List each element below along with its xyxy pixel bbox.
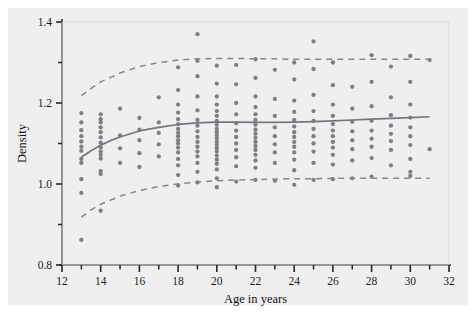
data-point bbox=[331, 145, 335, 149]
x-tick-label: 30 bbox=[405, 275, 417, 287]
data-point bbox=[350, 138, 354, 142]
x-tick-label: 16 bbox=[134, 275, 146, 287]
data-point bbox=[408, 157, 412, 161]
data-point bbox=[195, 32, 199, 36]
data-point bbox=[234, 148, 238, 152]
data-point bbox=[79, 139, 83, 143]
data-point bbox=[99, 209, 103, 213]
data-point bbox=[234, 141, 238, 145]
data-point bbox=[176, 65, 180, 69]
data-point bbox=[331, 162, 335, 166]
data-point bbox=[331, 134, 335, 138]
data-point bbox=[311, 134, 315, 138]
data-point bbox=[99, 112, 103, 116]
data-point bbox=[79, 177, 83, 181]
data-point bbox=[273, 142, 277, 146]
data-point bbox=[331, 114, 335, 118]
data-point bbox=[253, 158, 257, 162]
x-tick-label: 12 bbox=[56, 275, 68, 287]
x-tick-label: 26 bbox=[327, 275, 339, 287]
data-point bbox=[253, 105, 257, 109]
data-point bbox=[311, 141, 315, 145]
data-point bbox=[215, 114, 219, 118]
data-point bbox=[369, 104, 373, 108]
x-tick-label: 24 bbox=[288, 275, 300, 287]
y-axis-title: Density bbox=[15, 123, 29, 163]
data-point bbox=[331, 60, 335, 64]
data-point bbox=[176, 150, 180, 154]
data-point bbox=[273, 150, 277, 154]
data-point bbox=[331, 128, 335, 132]
y-tick-label: 1.0 bbox=[38, 178, 53, 190]
data-point bbox=[176, 88, 180, 92]
data-point bbox=[273, 97, 277, 101]
data-point bbox=[176, 117, 180, 121]
data-point bbox=[215, 185, 219, 189]
data-point bbox=[79, 134, 83, 138]
data-point bbox=[195, 129, 199, 133]
scatter-plot: 0.81.01.21.41214161820222426283032Age in… bbox=[0, 0, 476, 318]
data-point bbox=[253, 148, 257, 152]
data-point bbox=[118, 146, 122, 150]
x-tick-label: 14 bbox=[95, 275, 107, 287]
data-point bbox=[215, 176, 219, 180]
data-point bbox=[215, 81, 219, 85]
data-point bbox=[215, 158, 219, 162]
data-point bbox=[292, 77, 296, 81]
data-point bbox=[408, 54, 412, 58]
data-point bbox=[408, 134, 412, 138]
data-point bbox=[292, 140, 296, 144]
data-point bbox=[292, 168, 296, 172]
data-point bbox=[79, 120, 83, 124]
data-point bbox=[408, 170, 412, 174]
data-point bbox=[273, 68, 277, 72]
data-point bbox=[176, 163, 180, 167]
data-point bbox=[137, 151, 141, 155]
data-point bbox=[234, 135, 238, 139]
data-point bbox=[176, 145, 180, 149]
data-point bbox=[292, 110, 296, 114]
data-point bbox=[215, 109, 219, 113]
data-point bbox=[253, 140, 257, 144]
data-point bbox=[79, 128, 83, 132]
data-point bbox=[331, 102, 335, 106]
data-point bbox=[195, 108, 199, 112]
data-point bbox=[369, 145, 373, 149]
data-point bbox=[79, 157, 83, 161]
data-point bbox=[195, 94, 199, 98]
data-point bbox=[253, 76, 257, 80]
data-point bbox=[234, 101, 238, 105]
data-point bbox=[215, 123, 219, 127]
data-point bbox=[253, 128, 257, 132]
data-point bbox=[215, 102, 219, 106]
data-point bbox=[311, 67, 315, 71]
data-point bbox=[311, 161, 315, 165]
data-point bbox=[389, 95, 393, 99]
data-point bbox=[99, 130, 103, 134]
data-point bbox=[79, 149, 83, 153]
data-point bbox=[369, 53, 373, 57]
data-point bbox=[253, 153, 257, 157]
data-point bbox=[273, 125, 277, 129]
data-point bbox=[118, 107, 122, 111]
data-point bbox=[292, 150, 296, 154]
data-point bbox=[176, 131, 180, 135]
data-point bbox=[79, 238, 83, 242]
x-tick-label: 20 bbox=[211, 275, 223, 287]
data-point bbox=[137, 138, 141, 142]
data-point bbox=[389, 148, 393, 152]
data-point bbox=[311, 109, 315, 113]
data-point bbox=[157, 131, 161, 135]
data-point bbox=[137, 116, 141, 120]
data-point bbox=[331, 83, 335, 87]
data-point bbox=[369, 128, 373, 132]
data-point bbox=[79, 111, 83, 115]
data-point bbox=[176, 173, 180, 177]
data-point bbox=[331, 122, 335, 126]
data-point bbox=[253, 94, 257, 98]
data-point bbox=[195, 161, 199, 165]
data-point bbox=[292, 124, 296, 128]
data-point bbox=[195, 135, 199, 139]
data-point bbox=[234, 63, 238, 67]
x-axis-title: Age in years bbox=[224, 292, 287, 306]
